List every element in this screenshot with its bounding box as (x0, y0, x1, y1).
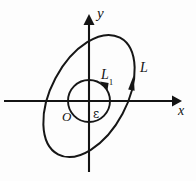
inner-contour-label-base: L (101, 67, 109, 82)
y-axis-label: y (97, 6, 104, 21)
y-axis-arrowhead (84, 14, 95, 25)
outer-contour-direction-arrow (128, 76, 134, 91)
epsilon-radius-label: ε (93, 108, 99, 120)
outer-contour-label: L (140, 61, 148, 75)
figure-container: y x O ε L L1 (0, 0, 196, 181)
coordinate-diagram-svg (0, 0, 196, 181)
x-axis-label: x (178, 104, 184, 118)
origin-label: O (62, 110, 71, 123)
inner-contour-label: L1 (101, 68, 113, 85)
inner-contour-label-subscript: 1 (109, 77, 114, 87)
